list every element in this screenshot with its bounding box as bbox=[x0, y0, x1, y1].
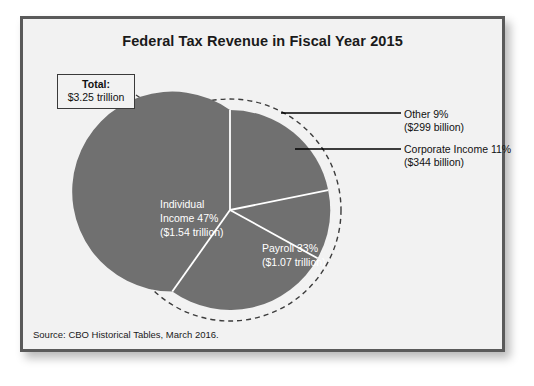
total-label: Total: bbox=[62, 78, 130, 91]
total-value: $3.25 trillion bbox=[62, 91, 130, 104]
source-note: Source: CBO Historical Tables, March 201… bbox=[33, 329, 219, 340]
individual-line2: Income 47% bbox=[160, 212, 224, 226]
individual-line3: ($1.54 trillion) bbox=[160, 226, 224, 240]
payroll-line1: Payroll 33% bbox=[262, 242, 326, 256]
callout-other-line1: Other 9% bbox=[404, 108, 448, 120]
individual-line1: Individual bbox=[160, 198, 224, 212]
figure-panel: Federal Tax Revenue in Fiscal Year 2015 bbox=[20, 16, 505, 352]
pie-chart-canvas bbox=[23, 19, 502, 349]
callout-corporate-line1: Corporate Income 11% bbox=[404, 143, 511, 155]
total-callout-box: Total: $3.25 trillion bbox=[57, 74, 135, 109]
callout-other-line2: ($299 billion) bbox=[404, 121, 464, 134]
callout-corporate-line2: ($344 billion) bbox=[404, 156, 511, 169]
slice-label-individual-income: Individual Income 47% ($1.54 trillion) bbox=[160, 198, 224, 240]
callout-label-corporate-income: Corporate Income 11% ($344 billion) bbox=[404, 143, 511, 170]
slice-label-payroll: Payroll 33% ($1.07 trillion) bbox=[262, 242, 326, 270]
payroll-line2: ($1.07 trillion) bbox=[262, 256, 326, 270]
callout-label-other: Other 9% ($299 billion) bbox=[404, 108, 464, 135]
